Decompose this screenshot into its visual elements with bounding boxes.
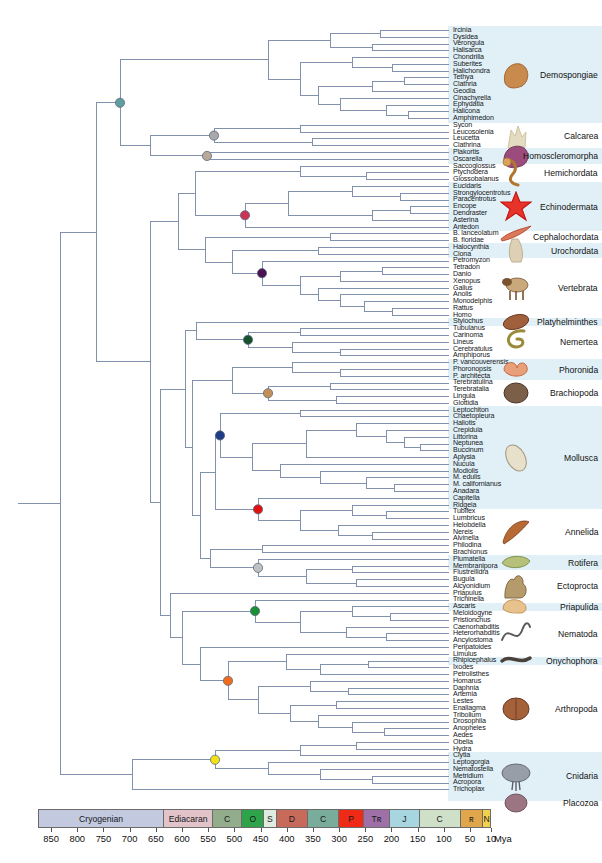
geologic-period: C <box>213 810 242 827</box>
axis-tick-label: 650 <box>148 833 164 844</box>
crab-icon <box>500 693 532 729</box>
sea-squirt-icon <box>500 235 532 271</box>
clade-name: Demospongiae <box>540 70 598 80</box>
acorn-worm-icon <box>500 157 532 193</box>
axis-tick-label: 150 <box>410 833 426 844</box>
axis-tick <box>51 828 52 832</box>
geologic-period: C <box>308 810 339 827</box>
geologic-period: D <box>277 810 308 827</box>
brachiopod-icon <box>500 377 532 413</box>
geologic-period: Ediacaran <box>164 810 213 827</box>
sponge-brown-icon <box>500 59 532 95</box>
axis-tick-label: 500 <box>227 833 243 844</box>
geologic-period: P <box>339 810 364 827</box>
axis-tick-label: 750 <box>96 833 112 844</box>
axis-tick <box>208 828 209 832</box>
axis-tick <box>444 828 445 832</box>
period-bar: CryogenianEdiacaranCOSDCPTʀJCʀN <box>38 809 491 828</box>
clade-name: Cnidaria <box>566 771 598 781</box>
taxon-label: Trichoplax <box>453 786 484 793</box>
velvet-worm-icon <box>500 645 532 681</box>
axis-tick-label: 200 <box>384 833 400 844</box>
axis-tick-label: 850 <box>43 833 59 844</box>
axis-tick-label: 450 <box>253 833 269 844</box>
axis-tick-label: 800 <box>69 833 85 844</box>
clade-name: Priapulida <box>560 602 598 612</box>
geologic-period: O <box>242 810 264 827</box>
clade-name: Mollusca <box>564 453 598 463</box>
geologic-period: ʀ <box>461 810 483 827</box>
shell-icon <box>500 442 532 478</box>
axis-tick <box>77 828 78 832</box>
clade-name: Hemichordata <box>544 168 598 178</box>
axis-tick <box>491 828 492 832</box>
clade-name: Brachiopoda <box>550 388 598 398</box>
axis-tick <box>156 828 157 832</box>
clade-name: Phoronida <box>559 365 598 375</box>
axis-tick-label: 350 <box>305 833 321 844</box>
axis-unit-label: Mya <box>494 833 512 844</box>
clade-name: Onychophora <box>546 656 598 666</box>
axis-tick-label: 50 <box>465 833 475 844</box>
axis-tick-label: 700 <box>122 833 138 844</box>
axis-tick <box>391 828 392 832</box>
axis-tick-label: 550 <box>200 833 216 844</box>
clade-name: Platyhelminthes <box>537 317 598 327</box>
clade-name: Calcarea <box>564 131 598 141</box>
phylogenetic-tree-figure: IrciniaDysideaVerongulaHalisarcaChondril… <box>0 0 602 863</box>
axis-tick-label: 400 <box>279 833 295 844</box>
axis-tick <box>234 828 235 832</box>
geologic-period: S <box>264 810 277 827</box>
clade-name: Ectoprocta <box>557 581 598 591</box>
axis-tick <box>418 828 419 832</box>
clade-name: Cephalochordata <box>533 232 598 242</box>
clade-name: Urochordata <box>551 246 598 256</box>
geologic-period: Tʀ <box>364 810 391 827</box>
axis-tick <box>261 828 262 832</box>
geologic-period: N <box>483 810 490 827</box>
clade-name: Rotifera <box>568 558 598 568</box>
clade-name: Nematoda <box>558 629 598 639</box>
geologic-period: J <box>390 810 419 827</box>
axis-tick <box>130 828 131 832</box>
axis-tick <box>313 828 314 832</box>
clade-name: Nemertea <box>560 337 598 347</box>
clade-name: Homoscleromorpha <box>523 151 598 161</box>
geologic-timescale: CryogenianEdiacaranCOSDCPTʀJCʀN 85080075… <box>0 806 602 863</box>
axis-tick-label: 300 <box>331 833 347 844</box>
axis-tick-label: 250 <box>357 833 373 844</box>
axis-tick-label: 100 <box>436 833 452 844</box>
axis-tick <box>365 828 366 832</box>
axis-tick <box>182 828 183 832</box>
axis-tick-label: 600 <box>174 833 190 844</box>
axis-tick <box>287 828 288 832</box>
clade-name: Echinodermata <box>540 202 598 212</box>
geologic-period: C <box>420 810 461 827</box>
clade-name: Annelida <box>565 527 598 537</box>
clade-name: Arthropoda <box>555 704 598 714</box>
axis-tick <box>103 828 104 832</box>
clade-name: Vertebrata <box>558 283 598 293</box>
dog-icon <box>500 272 532 308</box>
geologic-period: Cryogenian <box>39 810 164 827</box>
axis-tick <box>470 828 471 832</box>
axis-tick <box>339 828 340 832</box>
